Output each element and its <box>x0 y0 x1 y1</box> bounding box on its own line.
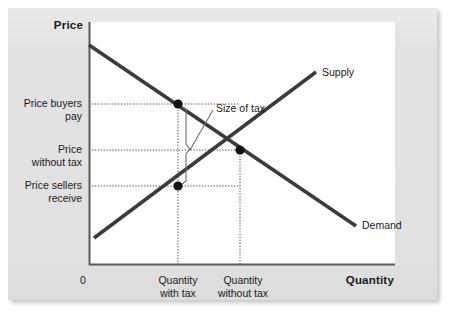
price-sellers-receive-label-line2: receive <box>48 192 82 204</box>
quantity-without-tax-label-line2: without tax <box>217 287 269 299</box>
price-without-tax-label-line2: without tax <box>31 156 83 168</box>
origin-label: 0 <box>80 274 86 286</box>
quantity-with-tax-label-line2: with tax <box>159 287 196 299</box>
size-of-tax-label: Size of tax <box>216 102 266 114</box>
price-buyers-pay-label-line1: Price buyers <box>24 97 82 109</box>
y-axis-title: Price <box>54 19 83 31</box>
quantity-with-tax-label-line1: Quantity <box>158 274 198 286</box>
x-axis-title: Quantity <box>346 274 395 286</box>
price-buyers-pay-label-line2: pay <box>65 110 83 122</box>
point-price-sellers-receive <box>173 181 182 190</box>
plot-area-background <box>89 22 395 265</box>
figure-page: Price Quantity 0 Price buyers pay Price … <box>0 0 464 314</box>
quantity-without-tax-label-line1: Quantity <box>223 274 263 286</box>
price-sellers-receive-label-line1: Price sellers <box>25 179 82 191</box>
point-price-buyers-pay <box>173 99 182 108</box>
price-without-tax-label-line1: Price <box>58 143 82 155</box>
supply-demand-chart: Price Quantity 0 Price buyers pay Price … <box>0 0 464 314</box>
supply-curve-label: Supply <box>322 66 355 78</box>
point-equilibrium-without-tax <box>235 145 244 154</box>
demand-curve-label: Demand <box>362 219 402 231</box>
